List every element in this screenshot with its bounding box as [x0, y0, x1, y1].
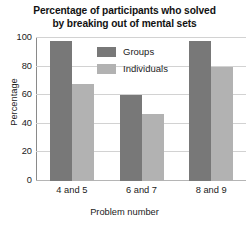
bar-groups-6-and-7 — [120, 95, 142, 181]
bar-individuals-8-and-9 — [211, 67, 233, 181]
y-tick-label: 80 — [22, 61, 32, 71]
y-axis-label: Percentage — [9, 62, 19, 142]
chart-title-line-2: by breaking out of mental sets — [0, 18, 249, 31]
bar-chart: Percentage of participants who solved by… — [0, 0, 249, 228]
chart-title: Percentage of participants who solved by… — [0, 5, 249, 30]
chart-legend: GroupsIndividuals — [97, 44, 193, 78]
y-tick-label: 20 — [22, 146, 32, 156]
chart-title-line-1: Percentage of participants who solved — [0, 5, 249, 18]
legend-swatch-icon — [97, 47, 116, 57]
legend-label: Groups — [123, 46, 154, 57]
y-tick-label: 60 — [22, 89, 32, 99]
bar-individuals-4-and-5 — [72, 84, 94, 181]
legend-item: Groups — [97, 44, 193, 59]
bar-individuals-6-and-7 — [142, 114, 164, 181]
y-tick-label: 0 — [27, 175, 32, 185]
bar-groups-4-and-5 — [50, 41, 72, 181]
x-tick-label: 6 and 7 — [126, 185, 157, 195]
legend-label: Individuals — [123, 63, 168, 74]
x-tick-label: 8 and 9 — [196, 185, 227, 195]
x-tick-label: 4 and 5 — [56, 185, 87, 195]
y-tick-label: 40 — [22, 118, 32, 128]
y-tick-label: 100 — [16, 32, 32, 42]
legend-item: Individuals — [97, 61, 193, 76]
legend-swatch-icon — [97, 64, 116, 74]
x-axis-label: Problem number — [0, 207, 249, 217]
